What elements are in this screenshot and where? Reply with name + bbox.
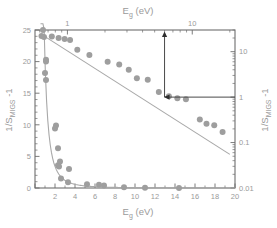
data-point [211,122,217,128]
data-point [86,52,92,58]
data-point [116,62,122,68]
data-point [145,77,151,83]
chart-svg: Eg (eV) Eg (eV) 1/SMIGS -1 1/SMIGS -1 24… [0,0,277,228]
bottom-ticklabel: 12 [151,192,159,201]
right-axis-ticks [231,30,236,188]
data-point [55,145,61,151]
data-point [142,185,148,191]
data-point [42,70,48,76]
data-point [66,166,72,172]
bottom-ticklabel: 8 [113,192,117,201]
data-point [43,77,49,83]
data-point [176,185,182,191]
decay-fit-curve [41,24,236,188]
bottom-ticklabel: 6 [93,192,97,201]
data-point [134,75,140,81]
bottom-ticklabel: 4 [73,192,77,201]
bottom-ticklabel: 14 [171,192,179,201]
data-point [52,126,58,132]
right-axis-title: 1/SMIGS -1 [259,88,272,131]
right-ticklabel: 10 [239,47,247,56]
data-point [105,59,111,65]
data-point [156,89,162,95]
data-point [203,121,209,127]
data-point [197,117,203,123]
bottom-ticklabel: 16 [191,192,199,201]
bottom-axis-title: Eg (eV) [123,206,154,220]
top-axis-ticklabels: 110 [65,19,196,28]
bottom-ticklabel: 18 [211,192,219,201]
series-linear-points [40,27,182,191]
data-point [39,33,45,39]
data-point [67,37,73,43]
left-ticklabel: 5 [27,152,31,161]
data-point [58,176,64,182]
bottom-ticklabel: 2 [53,192,57,201]
data-point [121,184,127,190]
data-point [74,47,80,53]
data-point [43,59,49,65]
data-point [126,67,132,73]
chart-figure: Eg (eV) Eg (eV) 1/SMIGS -1 1/SMIGS -1 24… [0,0,277,228]
left-ticklabel: 10 [23,121,31,130]
left-axis-ticklabels: 0510152025 [23,26,31,193]
left-ticklabel: 15 [23,89,31,98]
left-axis-title: 1/SMIGS -1 [3,88,16,131]
data-point [62,36,68,42]
vertical-arrow-head [162,32,167,38]
right-ticklabel: 1 [239,93,243,102]
left-ticklabel: 20 [23,57,31,66]
left-ticklabel: 25 [23,26,31,35]
top-axis-title: Eg (eV) [123,5,154,19]
annotation-arrows [162,32,235,100]
plot-frame [35,30,235,188]
data-point [84,181,90,187]
bottom-ticklabel: 20 [231,192,239,201]
right-ticklabel: 0.01 [239,184,254,193]
series-log-points [39,33,226,135]
data-point [56,164,62,170]
data-point [220,129,226,135]
data-point [65,179,71,185]
loglog-fit-line [41,34,229,154]
data-point [40,27,46,33]
right-ticklabel: 0.1 [239,138,249,147]
top-ticklabel: 1 [65,19,69,28]
left-ticklabel: 0 [27,184,31,193]
left-axis-ticks [35,30,40,188]
bottom-axis-ticklabels: 2468101214161820 [53,192,239,201]
data-point [56,35,62,41]
right-axis-ticklabels: 0.010.1110 [239,47,254,192]
top-axis-ticks [40,30,230,35]
data-point [101,182,107,188]
bottom-ticklabel: 10 [131,192,139,201]
top-ticklabel: 10 [188,19,196,28]
data-point [49,34,55,40]
data-point [174,95,180,101]
